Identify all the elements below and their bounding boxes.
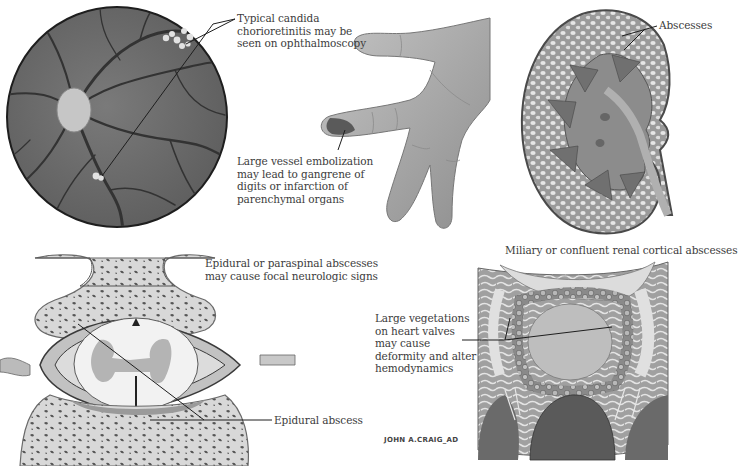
retina-fundus-illustration <box>0 0 240 240</box>
kidney-abscesses-callout: Abscesses <box>659 19 712 32</box>
spine-cross-section-illustration <box>0 255 295 466</box>
kidney-illustration <box>522 10 672 233</box>
hand-label: Large vessel embolization may lead to ga… <box>237 155 373 205</box>
retina-label: Typical candida chorioretinitis may be s… <box>237 12 366 50</box>
spine-label: Epidural or paraspinal abscesses may cau… <box>205 257 378 282</box>
heart-valve-illustration <box>462 262 668 460</box>
heart-label: Large vegetations on heart valves may ca… <box>375 312 476 375</box>
optic-disc <box>57 88 91 132</box>
kidney-caption: Miliary or confluent renal cortical absc… <box>505 244 738 257</box>
epidural-abscess-callout: Epidural abscess <box>274 414 363 427</box>
artist-signature: JOHN A.CRAIG_AD <box>384 436 458 444</box>
